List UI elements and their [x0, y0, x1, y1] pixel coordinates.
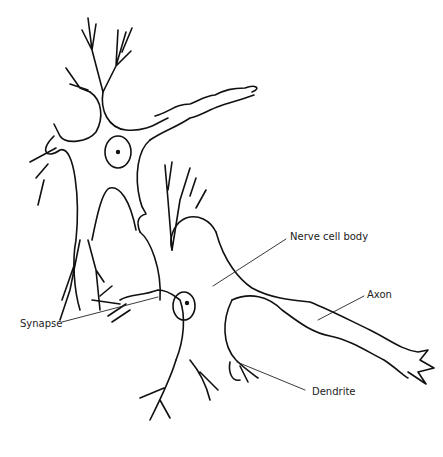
upper-neuron	[30, 18, 257, 320]
label-axon: Axon	[367, 289, 392, 300]
leader-dendrite	[237, 362, 305, 390]
neuron-diagram	[0, 0, 443, 457]
leader-nerve-cell-body	[213, 239, 286, 286]
label-nerve-cell-body: Nerve cell body	[290, 231, 368, 242]
leader-synapse	[62, 297, 158, 322]
label-synapse: Synapse	[20, 318, 62, 329]
label-dendrite: Dendrite	[312, 386, 356, 397]
